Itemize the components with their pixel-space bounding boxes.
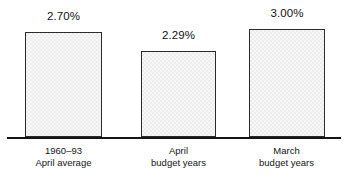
bar-value-label: 2.70% bbox=[25, 10, 102, 22]
category-label-line2: budget years bbox=[129, 157, 228, 169]
category-label-april-budget-years: April budget years bbox=[129, 145, 228, 169]
category-label-line1: April bbox=[129, 145, 228, 157]
category-label-line2: April average bbox=[14, 157, 113, 169]
bar-march-budget-years bbox=[249, 29, 325, 137]
category-axis-labels: 1960–93 April average April budget years… bbox=[0, 145, 348, 183]
plot-area: 2.70% 2.29% 3.00% bbox=[0, 0, 348, 140]
bar-1960-93-april-average bbox=[25, 32, 102, 137]
bar-chart: 2.70% 2.29% 3.00% 1960–93 April average … bbox=[0, 0, 348, 183]
bar-april-budget-years bbox=[141, 51, 216, 137]
category-label-march-budget-years: March budget years bbox=[237, 145, 336, 169]
bar-value-label: 3.00% bbox=[249, 7, 325, 19]
bar-value-label: 2.29% bbox=[141, 29, 216, 41]
category-label-1960-93-april-average: 1960–93 April average bbox=[14, 145, 113, 169]
category-label-line1: March bbox=[237, 145, 336, 157]
x-axis-line bbox=[7, 137, 341, 139]
category-label-line1: 1960–93 bbox=[14, 145, 113, 157]
category-label-line2: budget years bbox=[237, 157, 336, 169]
